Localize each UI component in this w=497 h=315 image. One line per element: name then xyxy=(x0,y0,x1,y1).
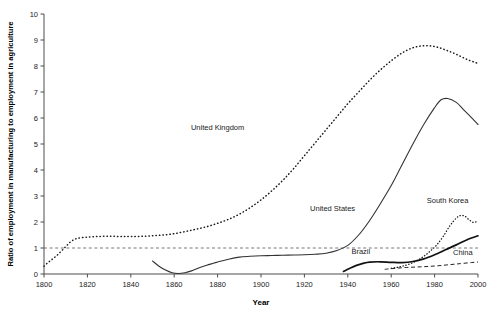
x-tick-label: 1980 xyxy=(426,280,443,289)
y-tick-label: 3 xyxy=(34,192,38,201)
employment-ratio-line-chart: 012345678910 180018201840186018801900192… xyxy=(0,0,497,315)
series-annotations: United KingdomUnited StatesSouth KoreaBr… xyxy=(191,123,474,258)
y-tick-label: 8 xyxy=(34,62,38,71)
chart-container: 012345678910 180018201840186018801900192… xyxy=(0,0,497,315)
y-tick-label: 7 xyxy=(34,88,38,97)
x-tick-label: 1840 xyxy=(122,280,139,289)
y-tick-label: 9 xyxy=(34,36,38,45)
data-series-group xyxy=(44,46,478,274)
annotation-china: China xyxy=(453,248,473,257)
x-tick-label: 1900 xyxy=(253,280,270,289)
x-tick-label: 1820 xyxy=(79,280,96,289)
x-tick-label: 1960 xyxy=(383,280,400,289)
annotation-brazil: Brazil xyxy=(351,247,370,256)
y-axis-ticks: 012345678910 xyxy=(30,10,44,279)
x-tick-label: 1920 xyxy=(296,280,313,289)
y-tick-label: 6 xyxy=(34,114,38,123)
y-tick-label: 0 xyxy=(34,270,38,279)
x-axis-ticks: 1800182018401860188019001920194019601980… xyxy=(36,274,487,289)
y-tick-label: 1 xyxy=(34,244,38,253)
x-axis-title: Year xyxy=(253,298,270,307)
x-tick-label: 1860 xyxy=(166,280,183,289)
annotation-south-korea: South Korea xyxy=(427,196,470,205)
x-tick-label: 2000 xyxy=(470,280,487,289)
annotation-united-kingdom: United Kingdom xyxy=(191,123,244,132)
x-tick-label: 1800 xyxy=(36,280,53,289)
series-line-south-korea xyxy=(391,215,478,268)
x-tick-label: 1880 xyxy=(209,280,226,289)
series-line-united-kingdom xyxy=(44,46,478,267)
annotation-united-states: United States xyxy=(310,204,355,213)
y-tick-label: 2 xyxy=(34,218,38,227)
x-tick-label: 1940 xyxy=(339,280,356,289)
y-tick-label: 5 xyxy=(34,140,38,149)
y-axis-title: Ratio of employment in manufacturing to … xyxy=(6,21,15,266)
y-tick-label: 4 xyxy=(34,166,38,175)
y-tick-label: 10 xyxy=(30,10,38,19)
